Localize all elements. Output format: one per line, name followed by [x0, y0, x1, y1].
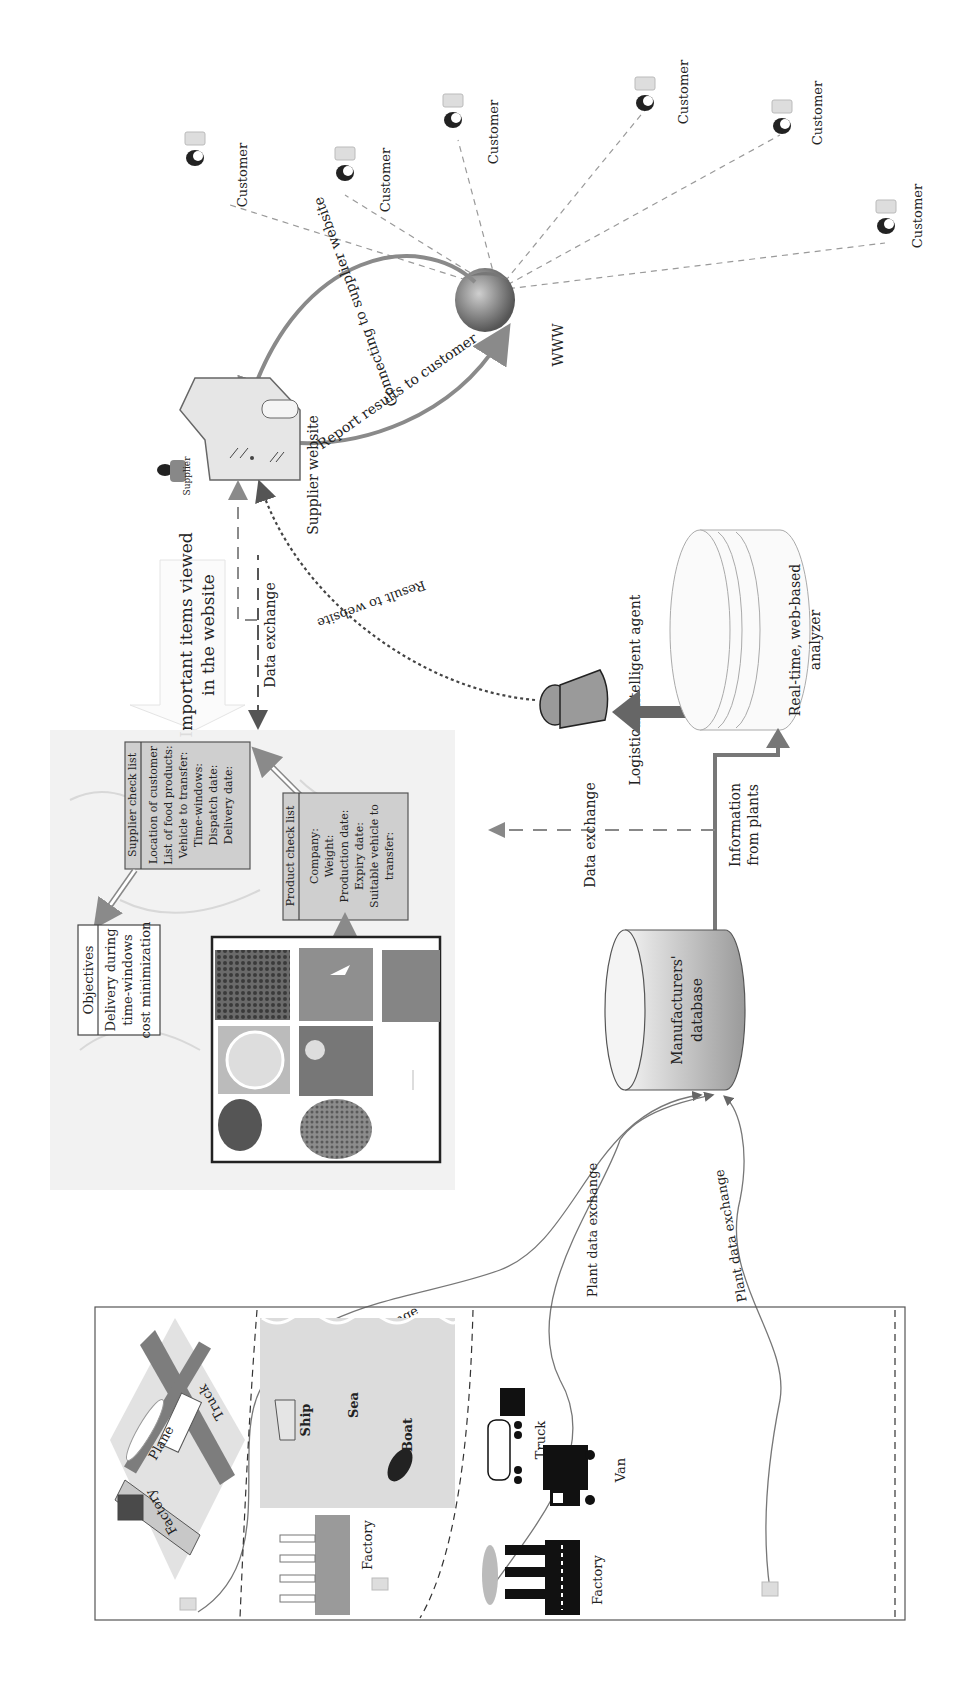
plant-link-label-3: Plant data exchange [711, 1168, 749, 1303]
factory-dark-icon [482, 1540, 580, 1615]
zone-land: Truck Van Factory [482, 1388, 778, 1615]
van-icon [543, 1445, 595, 1506]
www-network: WWW Customer Customer Customer Customer [185, 59, 925, 367]
customer-label: Customer [235, 142, 250, 207]
www-label: WWW [550, 323, 566, 367]
customer-1[interactable]: Customer [185, 132, 250, 207]
customer-4[interactable]: Customer [635, 59, 691, 124]
food-photo [299, 948, 373, 1021]
customer-label: Customer [810, 80, 825, 145]
data-exchange-top-label: Data exchange [262, 582, 278, 688]
objectives-item: Delivery during [103, 929, 118, 1032]
supplier-checklist-item: Time-windows: [192, 763, 205, 847]
objectives-item: time-windows [120, 934, 135, 1025]
important-items-line1: Important items viewed [176, 532, 196, 738]
customer-label: Customer [378, 147, 393, 212]
food-photo [299, 1026, 373, 1096]
important-items-arrow: Important items viewed in the website [130, 532, 245, 738]
db-line1: Manufacturers' [669, 955, 685, 1064]
plants-box: Factory Plane Truck Ship Sea Boat Factor… [95, 1307, 905, 1620]
food-photo [382, 950, 440, 1022]
supplier-checklist: Supplier check list Location of customer… [125, 742, 250, 869]
food-photo [218, 1099, 262, 1151]
realtime-analyzer[interactable]: Real-time, web-based analyzer [670, 530, 823, 730]
logistical-agent[interactable]: Logistical intelligent agent [540, 594, 643, 785]
zone-air: Factory Plane Truck [110, 1318, 245, 1610]
supplier-checklist-title: Supplier check list [126, 752, 139, 857]
customer-6[interactable]: Customer [876, 183, 925, 248]
agent-label: Logistical intelligent agent [627, 594, 643, 785]
analyzer-line1: Real-time, web-based [787, 564, 803, 717]
product-checklist: Product check list Company: Weight: Prod… [283, 793, 408, 920]
supplier-website-label: Supplier website [305, 415, 321, 535]
supplier-checklist-item: Vehicle to transfer: [177, 752, 190, 860]
product-checklist-item: Production date: [338, 810, 351, 903]
objectives-item: cost minimization [138, 921, 153, 1038]
plant-computer-icon [762, 1582, 778, 1596]
analyzer-line2: analyzer [807, 609, 823, 670]
zone-sea-factory-label: Factory [360, 1519, 375, 1569]
data-exchange-mid-label: Data exchange [582, 782, 598, 888]
info-plants-line2: from plants [745, 784, 761, 866]
food-photo [215, 950, 290, 1020]
product-checklist-item: Weight: [323, 835, 336, 878]
important-items-line2: in the website [198, 574, 218, 696]
www-globe-icon[interactable] [455, 268, 515, 332]
customer-label: Customer [486, 99, 501, 164]
supplier-checklist-item: Dispatch date: [207, 765, 220, 846]
server-icon [180, 378, 300, 480]
product-checklist-item: Expiry date: [353, 822, 366, 890]
supplier-checklist-item: Delivery date: [222, 766, 235, 844]
zone-sea: Ship Sea Boat Factory [260, 1313, 457, 1615]
website-map-panel: Supplier check list Location of customer… [50, 730, 455, 1190]
ship-label: Ship [298, 1404, 313, 1437]
info-plants-line1: Information [727, 783, 743, 867]
tanker-truck-icon [488, 1388, 525, 1484]
food-photo [300, 1099, 372, 1159]
van-label: Van [613, 1457, 628, 1483]
product-checklist-item: Company: [308, 828, 321, 884]
supply-chain-diagram: WWW Customer Customer Customer Customer [0, 0, 956, 1686]
customer-2[interactable]: Customer [335, 147, 393, 212]
plant-computer-icon [372, 1578, 388, 1590]
information-from-plants: Information from plants [715, 728, 790, 935]
connecting-label: Connecting to supplier website [310, 195, 401, 409]
result-to-website-label: Result to website [315, 578, 428, 631]
objectives-title: Objectives [81, 945, 96, 1014]
supplier-icon-label: Supplier [182, 456, 192, 496]
customer-3[interactable]: Customer [443, 94, 501, 164]
plant-computer-icon [180, 1598, 196, 1610]
manufacturers-database[interactable]: Manufacturers' database [605, 930, 745, 1090]
product-checklist-item: transfer: [383, 832, 396, 881]
customer-label: Customer [910, 183, 925, 248]
db-line2: database [689, 978, 705, 1042]
supplier-checklist-item: List of food products: [162, 745, 175, 864]
data-exchange-mid: Data exchange [488, 782, 715, 888]
plant-link-label-2: Plant data exchange [585, 1163, 600, 1298]
data-exchange-arrows: Data exchange Result to website [238, 490, 535, 720]
supplier-checklist-item: Location of customer [147, 745, 160, 864]
zone-land-factory-label: Factory [590, 1554, 605, 1604]
customer-label: Customer [676, 59, 691, 124]
factory-icon [280, 1515, 350, 1615]
boat-label: Boat [400, 1418, 415, 1452]
product-checklist-item: Suitable vehicle to [368, 804, 381, 908]
sea-label: Sea [346, 1391, 361, 1418]
product-checklist-title: Product check list [284, 805, 297, 906]
objectives-box: Objectives Delivery during time-windows … [78, 921, 160, 1038]
food-photos-grid [212, 937, 440, 1162]
